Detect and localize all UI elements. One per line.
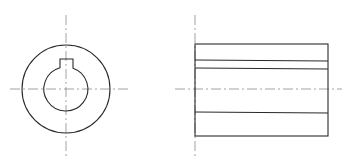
bore-line-bottom [195,112,328,113]
bore-with-keyway [44,59,88,111]
technical-drawing [0,0,347,166]
drawing-svg [0,0,347,166]
side-outline [195,44,328,136]
side-view [175,15,342,158]
end-view [10,15,130,158]
keyway-line-top [195,60,328,61]
keyway-line-bottom [195,68,328,69]
